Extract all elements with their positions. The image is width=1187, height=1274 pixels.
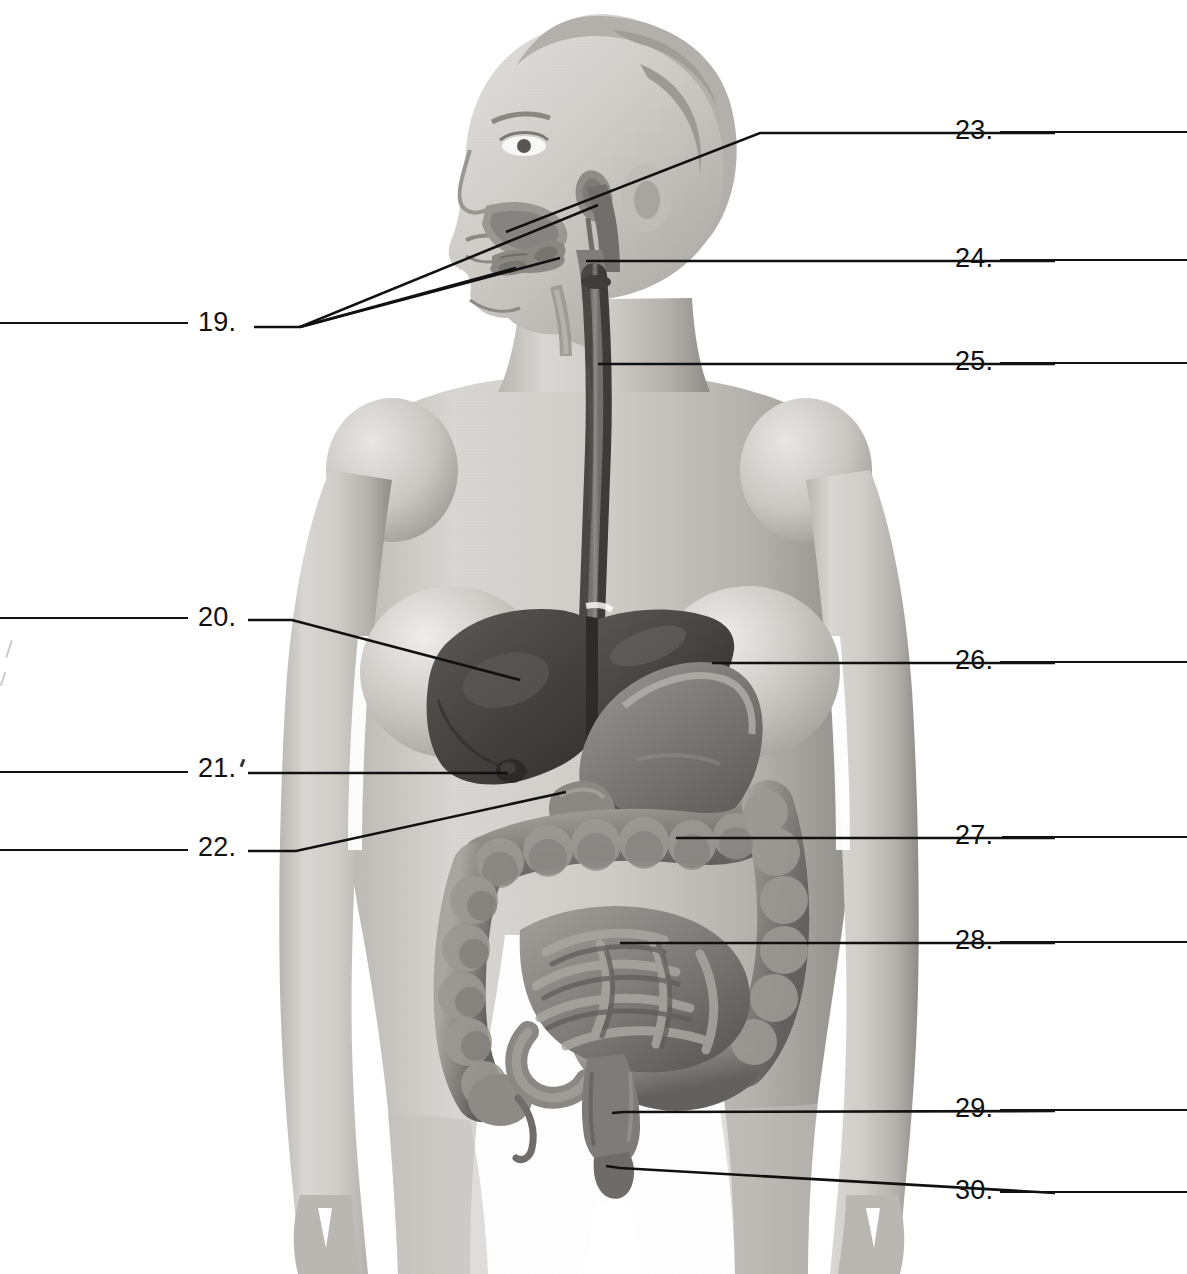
answer-line-20[interactable] <box>0 617 188 619</box>
label-number-29: 29. <box>955 1095 993 1122</box>
label-number-30: 30. <box>955 1177 993 1204</box>
answer-line-29[interactable] <box>1000 1109 1187 1111</box>
worksheet-page: 19. 20. 21. 22. 23. 24. 25. 26. 27. 28. … <box>0 0 1187 1274</box>
scan-artifact-b <box>0 672 6 686</box>
answer-line-28[interactable] <box>1000 941 1187 943</box>
label-number-23: 23. <box>955 117 993 144</box>
label-number-24: 24. <box>955 245 993 272</box>
answer-line-23[interactable] <box>1000 131 1187 133</box>
label-number-26: 26. <box>955 647 993 674</box>
label-number-21: 21. <box>198 755 236 782</box>
label-number-28: 28. <box>955 927 993 954</box>
label-number-27: 27. <box>955 822 993 849</box>
label-number-20: 20. <box>198 604 236 631</box>
label-number-19: 19. <box>198 309 236 336</box>
answer-line-27[interactable] <box>1002 836 1187 838</box>
answer-line-22[interactable] <box>0 849 188 851</box>
answer-line-26[interactable] <box>1000 661 1187 663</box>
label-number-22: 22. <box>198 834 236 861</box>
scan-artifact-a <box>5 640 12 658</box>
scan-artifact-c <box>240 759 246 768</box>
label-number-25: 25. <box>955 348 993 375</box>
answer-line-24[interactable] <box>1000 259 1187 261</box>
answer-line-25[interactable] <box>1000 362 1187 364</box>
answer-line-30[interactable] <box>1000 1191 1187 1193</box>
label-layer: 19. 20. 21. 22. 23. 24. 25. 26. 27. 28. … <box>0 0 1187 1274</box>
answer-line-19[interactable] <box>0 322 188 324</box>
answer-line-21[interactable] <box>0 771 188 773</box>
